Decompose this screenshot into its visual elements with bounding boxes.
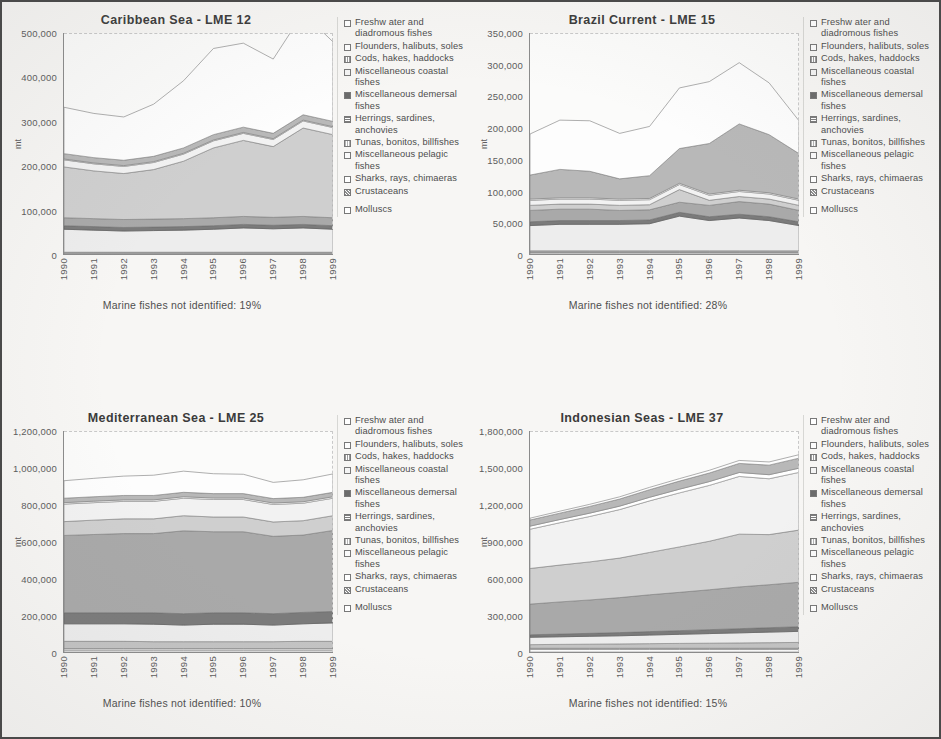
y-axis-label: mt bbox=[13, 537, 23, 547]
legend-item[interactable]: Miscellaneous pelagic fishes bbox=[344, 149, 465, 172]
legend-item[interactable]: Herrings, sardines, anchovies bbox=[810, 113, 931, 136]
legend-swatch-icon bbox=[810, 605, 817, 612]
legend-swatch-icon bbox=[344, 56, 351, 63]
x-axis-tick-label: 1991 bbox=[87, 656, 98, 678]
legend-item[interactable]: Crustaceans bbox=[344, 584, 465, 595]
legend-item[interactable]: Crustaceans bbox=[810, 186, 931, 197]
legend-item[interactable]: Miscellaneous coastal fishes bbox=[344, 66, 465, 89]
legend-item-label: Cods, hakes, haddocks bbox=[355, 53, 454, 64]
legend-item-label: Miscellaneous pelagic fishes bbox=[821, 149, 931, 172]
legend-item[interactable]: Freshw ater and diadromous fishes bbox=[810, 17, 931, 40]
legend-item[interactable]: Miscellaneous coastal fishes bbox=[810, 66, 931, 89]
legend-item[interactable]: Herrings, sardines, anchovies bbox=[344, 113, 465, 136]
legend-item[interactable]: Miscellaneous demersal fishes bbox=[344, 487, 465, 510]
legend-item-label: Molluscs bbox=[355, 602, 392, 613]
legend-item[interactable]: Sharks, rays, chimaeras bbox=[810, 571, 931, 582]
legend-swatch-icon bbox=[810, 550, 817, 557]
legend-item[interactable]: Tunas, bonitos, billfishes bbox=[344, 535, 465, 546]
legend-item[interactable]: Herrings, sardines, anchovies bbox=[810, 511, 931, 534]
legend-swatch-icon bbox=[344, 442, 351, 449]
legend-item[interactable]: Miscellaneous pelagic fishes bbox=[810, 547, 931, 570]
chart-panel-indonesian-seas: Indonesian Seas - LME 37 0300,000600,000… bbox=[473, 405, 935, 723]
legend-item[interactable]: Molluscs bbox=[810, 204, 931, 215]
legend-item-label: Sharks, rays, chimaeras bbox=[355, 173, 457, 184]
legend-item-label: Flounders, halibuts, soles bbox=[355, 41, 463, 52]
y-axis-tick-label: 0 bbox=[52, 250, 57, 261]
chart-annotation: Marine fishes not identified: 19% bbox=[17, 299, 347, 311]
y-axis-tick-label: 100,000 bbox=[21, 205, 57, 216]
legend-item[interactable]: Sharks, rays, chimaeras bbox=[344, 173, 465, 184]
legend-swatch-icon bbox=[810, 574, 817, 581]
legend-item-label: Miscellaneous coastal fishes bbox=[355, 464, 465, 487]
legend-item[interactable]: Molluscs bbox=[344, 602, 465, 613]
legend-item[interactable]: Sharks, rays, chimaeras bbox=[810, 173, 931, 184]
y-axis-tick-label: 500,000 bbox=[21, 28, 57, 39]
x-axis-ticks: 1990199119921993199419951996199719981999 bbox=[63, 258, 333, 302]
legend-item[interactable]: Tunas, bonitos, billfishes bbox=[344, 137, 465, 148]
legend-item[interactable]: Flounders, halibuts, soles bbox=[344, 439, 465, 450]
x-axis-tick-label: 1990 bbox=[524, 258, 535, 280]
legend-swatch-icon bbox=[344, 152, 351, 159]
legend-item[interactable]: Miscellaneous coastal fishes bbox=[344, 464, 465, 487]
legend-swatch-icon bbox=[810, 454, 817, 461]
legend-swatch-icon bbox=[810, 140, 817, 147]
legend-item[interactable]: Herrings, sardines, anchovies bbox=[344, 511, 465, 534]
legend-item-label: Herrings, sardines, anchovies bbox=[821, 113, 931, 136]
legend-item[interactable]: Freshw ater and diadromous fishes bbox=[810, 415, 931, 438]
legend-item[interactable]: Miscellaneous demersal fishes bbox=[810, 487, 931, 510]
x-axis-tick-label: 1998 bbox=[763, 656, 774, 678]
legend-item-label: Crustaceans bbox=[821, 584, 874, 595]
legend-swatch-icon bbox=[810, 152, 817, 159]
legend-item[interactable]: Miscellaneous demersal fishes bbox=[344, 89, 465, 112]
legend-item-label: Molluscs bbox=[355, 204, 392, 215]
legend-item[interactable]: Miscellaneous demersal fishes bbox=[810, 89, 931, 112]
chart-legend: Freshw ater and diadromous fishesFlounde… bbox=[337, 17, 465, 217]
legend-item-label: Tunas, bonitos, billfishes bbox=[355, 535, 459, 546]
legend-item-label: Sharks, rays, chimaeras bbox=[821, 173, 923, 184]
y-axis-tick-label: 1,800,000 bbox=[479, 426, 523, 437]
area-series bbox=[64, 530, 333, 613]
legend-item[interactable]: Tunas, bonitos, billfishes bbox=[810, 535, 931, 546]
legend-item[interactable]: Cods, hakes, haddocks bbox=[344, 451, 465, 462]
y-axis-tick-label: 300,000 bbox=[487, 59, 523, 70]
legend-item-label: Sharks, rays, chimaeras bbox=[821, 571, 923, 582]
legend-swatch-icon bbox=[344, 20, 351, 27]
legend-item[interactable]: Miscellaneous pelagic fishes bbox=[344, 547, 465, 570]
x-axis-tick-label: 1997 bbox=[267, 656, 278, 678]
legend-item-label: Tunas, bonitos, billfishes bbox=[355, 137, 459, 148]
legend-item-label: Sharks, rays, chimaeras bbox=[355, 571, 457, 582]
legend-item[interactable]: Flounders, halibuts, soles bbox=[810, 439, 931, 450]
legend-item[interactable]: Cods, hakes, haddocks bbox=[810, 53, 931, 64]
legend-item-label: Flounders, halibuts, soles bbox=[821, 439, 929, 450]
legend-item-label: Freshw ater and diadromous fishes bbox=[821, 17, 931, 40]
plot-area-wrapper: 0100,000200,000300,000400,000500,000 mt … bbox=[63, 33, 333, 255]
legend-item-label: Miscellaneous demersal fishes bbox=[821, 89, 931, 112]
x-axis-tick-label: 1992 bbox=[583, 656, 594, 678]
legend-item[interactable]: Crustaceans bbox=[344, 186, 465, 197]
legend-item[interactable]: Miscellaneous coastal fishes bbox=[810, 464, 931, 487]
chart-annotation: Marine fishes not identified: 10% bbox=[17, 697, 347, 709]
y-axis-tick-label: 200,000 bbox=[21, 161, 57, 172]
x-axis-tick-label: 1996 bbox=[703, 656, 714, 678]
legend-swatch-icon bbox=[344, 587, 351, 594]
legend-item-label: Cods, hakes, haddocks bbox=[821, 53, 920, 64]
legend-item[interactable]: Miscellaneous pelagic fishes bbox=[810, 149, 931, 172]
legend-item[interactable]: Flounders, halibuts, soles bbox=[810, 41, 931, 52]
legend-swatch-icon bbox=[344, 467, 351, 474]
x-axis-tick-label: 1999 bbox=[327, 656, 338, 678]
legend-swatch-icon bbox=[810, 514, 817, 521]
legend-swatch-icon bbox=[344, 418, 351, 425]
legend-item[interactable]: Cods, hakes, haddocks bbox=[344, 53, 465, 64]
legend-item[interactable]: Sharks, rays, chimaeras bbox=[344, 571, 465, 582]
legend-item[interactable]: Cods, hakes, haddocks bbox=[810, 451, 931, 462]
x-axis-ticks: 1990199119921993199419951996199719981999 bbox=[529, 258, 799, 302]
legend-item[interactable]: Crustaceans bbox=[810, 584, 931, 595]
chart-legend: Freshw ater and diadromous fishesFlounde… bbox=[803, 415, 931, 615]
x-axis-tick-label: 1995 bbox=[207, 258, 218, 280]
legend-item[interactable]: Tunas, bonitos, billfishes bbox=[810, 137, 931, 148]
legend-swatch-icon bbox=[810, 467, 817, 474]
legend-item[interactable]: Flounders, halibuts, soles bbox=[344, 41, 465, 52]
legend-item[interactable]: Molluscs bbox=[344, 204, 465, 215]
x-axis-tick-label: 1999 bbox=[793, 258, 804, 280]
legend-item[interactable]: Molluscs bbox=[810, 602, 931, 613]
